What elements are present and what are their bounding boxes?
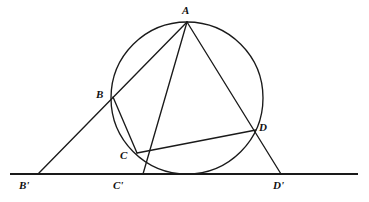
point-label-a: A [182,5,189,16]
geometry-canvas [0,0,369,202]
point-label-c-prime: C' [113,180,123,191]
point-label-d: D [259,122,267,133]
geometry-figure: A B C D B' C' D' [0,0,369,202]
circumscribed-circle [111,22,263,174]
point-label-b: B [96,89,103,100]
point-label-d-prime: D' [273,180,284,191]
point-label-c: C [120,150,127,161]
ray-dprime-to-a [187,22,281,174]
point-label-b-prime: B' [19,180,29,191]
